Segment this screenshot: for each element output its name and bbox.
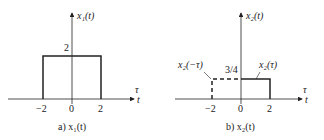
pulse-x2-neg-tau	[212, 79, 241, 99]
leader-left	[204, 72, 211, 79]
tick-2: 2	[98, 103, 103, 114]
pulse-x2-tau	[241, 79, 270, 99]
y-axis-label: x₁(t)	[76, 10, 95, 22]
panel-b: x₂(t) 3/4 x₂(−τ) x₂(τ) τ t −2 0 2 b) x₂(…	[175, 10, 308, 133]
annotation-x2-tau: x₂(τ)	[258, 59, 278, 71]
tick-neg2: −2	[205, 103, 216, 114]
leader-right	[256, 72, 260, 79]
caption-b: b) x₂(t)	[226, 121, 255, 133]
t-label: t	[305, 94, 308, 105]
tick-0: 0	[69, 103, 74, 114]
level-label: 3/4	[225, 64, 238, 75]
y-axis-label: x₂(t)	[245, 10, 264, 22]
caption-a: a) x₁(t)	[58, 121, 86, 133]
tick-neg2: −2	[36, 103, 47, 114]
level-label: 2	[64, 42, 69, 53]
t-label: t	[137, 94, 140, 105]
annotation-x2-neg-tau: x₂(−τ)	[177, 59, 204, 71]
tick-2: 2	[267, 103, 272, 114]
panel-a: x₁(t) 2 τ t −2 0 2 a) x₁(t)	[8, 10, 140, 133]
signal-diagrams: x₁(t) 2 τ t −2 0 2 a) x₁(t) x₂(t) 3/4 x₂…	[0, 0, 324, 140]
tick-0: 0	[238, 103, 243, 114]
